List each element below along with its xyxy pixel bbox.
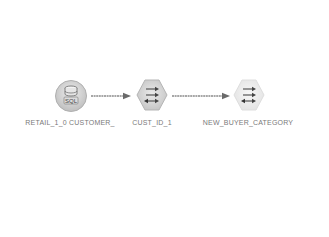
sql-database-icon: SQL (54, 79, 88, 113)
arrow-right-icon (90, 92, 132, 100)
edge-source-to-transform (90, 92, 132, 100)
diagram-canvas: SQL RETAIL_1_0 CUSTOMER_ (0, 0, 329, 237)
node-source-label: RETAIL_1_0 CUSTOMER_ (25, 119, 114, 126)
node-source[interactable]: SQL (54, 79, 88, 113)
node-transform[interactable] (135, 78, 169, 112)
target-hexagon-icon (232, 78, 266, 112)
edge-transform-to-target (171, 92, 231, 100)
node-target[interactable] (232, 78, 266, 112)
svg-text:SQL: SQL (65, 98, 78, 104)
node-target-label: NEW_BUYER_CATEGORY (203, 119, 293, 126)
node-transform-label: CUST_ID_1 (132, 119, 172, 126)
arrow-right-icon (171, 92, 231, 100)
transform-hexagon-icon (135, 78, 169, 112)
